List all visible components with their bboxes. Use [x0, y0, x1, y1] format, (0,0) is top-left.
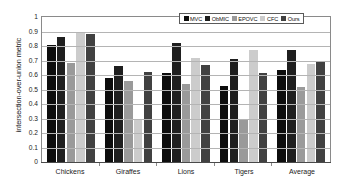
y-axis-tick-label: 0.7 — [20, 56, 38, 63]
bar — [134, 119, 143, 163]
plot-area — [41, 16, 331, 162]
legend-swatch-icon — [205, 16, 210, 21]
legend-item: ObMIC — [205, 16, 229, 22]
legend-item: MVC — [184, 16, 203, 22]
gridline — [42, 104, 330, 105]
legend-label: ObMIC — [212, 16, 229, 22]
gridline — [42, 61, 330, 62]
gridline — [42, 148, 330, 149]
y-axis-tick-label: 1 — [20, 13, 38, 20]
legend-swatch-icon — [260, 16, 265, 21]
bar — [220, 86, 229, 162]
x-axis-category-label: Giraffes — [99, 168, 157, 175]
y-axis-tick-label: 0 — [20, 158, 38, 165]
legend-label: MVC — [190, 16, 202, 22]
bar — [124, 81, 133, 162]
x-axis-line — [41, 162, 331, 163]
bar — [86, 34, 95, 162]
bar — [105, 78, 114, 162]
gridline — [42, 46, 330, 47]
bar-chart: intersection-over-union metric 10.90.80.… — [0, 0, 337, 186]
bar — [249, 50, 258, 162]
legend-swatch-icon — [232, 16, 237, 21]
gridline — [42, 75, 330, 76]
bar — [297, 87, 306, 162]
chart-legend: MVCObMICEPOVCCFCOurs — [179, 13, 304, 24]
bar — [259, 73, 268, 162]
x-axis-category-labels: ChickensGiraffesLionsTigersAverage — [41, 168, 331, 175]
bar — [144, 72, 153, 162]
bar — [162, 73, 171, 162]
y-axis-tick-label: 0.4 — [20, 100, 38, 107]
legend-swatch-icon — [281, 16, 286, 21]
bar — [76, 32, 85, 163]
bar — [57, 37, 66, 162]
gridline — [42, 133, 330, 134]
y-axis-tick-label: 0.9 — [20, 27, 38, 34]
y-axis-tick-label: 0.5 — [20, 85, 38, 92]
legend-label: CFC — [267, 16, 278, 22]
y-axis-tick-label: 0.6 — [20, 71, 38, 78]
legend-item: CFC — [260, 16, 278, 22]
legend-item: EPOVC — [232, 16, 258, 22]
y-axis-tick-label: 0.3 — [20, 114, 38, 121]
gridline — [42, 119, 330, 120]
y-axis-tick-label: 0.2 — [20, 129, 38, 136]
y-axis-tick-label: 0.1 — [20, 143, 38, 150]
y-axis-tick-label: 0.8 — [20, 42, 38, 49]
bar — [191, 58, 200, 162]
bar — [182, 84, 191, 162]
x-axis-category-label: Chickens — [41, 168, 99, 175]
x-axis-category-label: Lions — [157, 168, 215, 175]
bar — [287, 50, 296, 162]
y-axis-tick-labels: 10.90.80.70.60.50.40.30.20.10 — [20, 10, 38, 167]
legend-label: EPOVC — [238, 16, 257, 22]
legend-swatch-icon — [184, 16, 189, 21]
x-axis-category-label: Average — [273, 168, 331, 175]
x-axis-category-label: Tigers — [215, 168, 273, 175]
legend-item: Ours — [281, 16, 299, 22]
gridline — [42, 90, 330, 91]
bar — [239, 119, 248, 162]
legend-label: Ours — [288, 16, 300, 22]
gridline — [42, 32, 330, 33]
